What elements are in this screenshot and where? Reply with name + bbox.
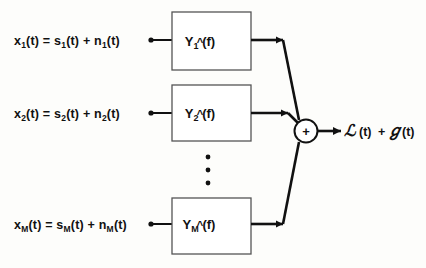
output-n-argument: (t)	[402, 125, 415, 139]
vertical-ellipsis	[206, 155, 211, 186]
output-script-s-glyph: ℒ	[344, 121, 357, 140]
channel-M-equation: xM(t) = sM(t) + nM(t)	[14, 218, 127, 234]
output-s-argument: (t)	[359, 125, 372, 139]
diagonal-wire-1	[283, 40, 299, 120]
arrowhead-M	[276, 221, 283, 228]
channel-1-equation: x1(t) = s1(t) + n1(t)	[14, 34, 120, 50]
channel-M-group: ^ YM (f)	[148, 142, 299, 254]
summing-junction-operator: +	[302, 124, 310, 139]
block-diagram: ^ Y1 (f) ^ Y2 (f)	[0, 0, 426, 268]
ellipsis-dot-2	[206, 168, 211, 173]
diagonal-wire-M	[283, 142, 299, 224]
output-expression: ℒ (t) + ℊ (t)	[344, 121, 415, 141]
arrowhead-2	[281, 110, 288, 117]
channel-2-equation: x2(t) = s2(t) + n2(t)	[14, 107, 120, 123]
filter-2-label: Y2 (f)	[185, 106, 215, 123]
filter-M-label: YM (f)	[183, 217, 216, 234]
figure-canvas: ^ Y1 (f) ^ Y2 (f)	[0, 0, 426, 268]
arrowhead-output	[333, 127, 341, 135]
filter-1-label: Y1 (f)	[185, 34, 215, 51]
output-script-n-glyph: ℊ	[387, 121, 403, 141]
channel-2-group: ^ Y2 (f)	[148, 85, 299, 141]
ellipsis-dot-3	[206, 181, 211, 186]
output-plus-operator: +	[378, 125, 385, 139]
arrowhead-1	[276, 37, 283, 44]
output-wire-group	[318, 127, 342, 135]
ellipsis-dot-1	[206, 155, 211, 160]
summing-junction-group[interactable]: +	[295, 120, 318, 143]
